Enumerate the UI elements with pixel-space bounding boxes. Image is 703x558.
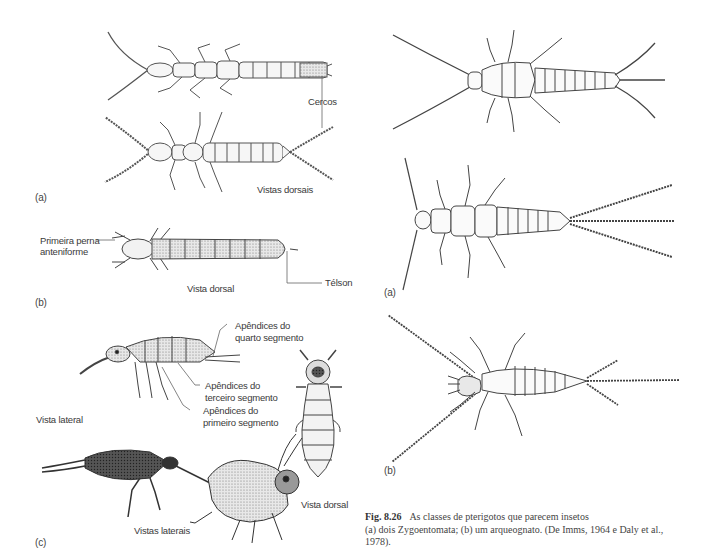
panel-letter-left-c: (c): [35, 537, 46, 548]
globular-springtail-illustration: [190, 434, 302, 543]
label-primeiro-line2: primeiro segmento: [203, 417, 278, 428]
silverfish-bottom-illustration: [403, 158, 674, 290]
label-primeira-perna-line2: anteniforme: [40, 246, 88, 257]
label-telson: Télson: [325, 277, 352, 288]
label-vista-dorsal-b: Vista dorsal: [187, 283, 234, 294]
label-quarto-line2: quarto segmento: [235, 332, 303, 343]
dipluran-bottom-illustration: [105, 112, 333, 192]
label-vista-lateral: Vista lateral: [36, 414, 83, 425]
label-primeira-perna-line1: Primeira perna: [40, 235, 100, 246]
caption-line-1: Fig. 8.26As classes de pterigotos que pa…: [365, 511, 695, 524]
panel-letter-right-b: (b): [384, 465, 396, 476]
label-cercos: Cercos: [308, 96, 337, 107]
panel-letter-left-a: (a): [35, 192, 47, 203]
dipluran-top-illustration: [108, 32, 332, 100]
dark-springtail-illustration: [42, 450, 210, 517]
silverfish-top-illustration: [393, 30, 665, 132]
figure-title: As classes de pterigotos que parecem ins…: [409, 511, 588, 522]
figure-caption: Fig. 8.26As classes de pterigotos que pa…: [365, 511, 695, 549]
figure-number: Fig. 8.26: [365, 511, 401, 522]
label-terceiro-line2: terceiro segmento: [205, 392, 278, 403]
label-primeiro-line1: Apêndices do: [203, 405, 258, 416]
larva-dorsal-illustration: [296, 350, 342, 477]
label-vistas-laterais: Vistas laterais: [134, 525, 190, 536]
label-vistas-dorsais: Vistas dorsais: [257, 184, 313, 195]
label-terceiro-line1: Apêndices do: [205, 380, 260, 391]
label-vista-dorsal-c: Vista dorsal: [301, 499, 348, 510]
panel-letter-left-b: (b): [35, 297, 47, 308]
label-quarto-line1: Apêndices do: [235, 320, 290, 331]
protura-dorsal-illustration: [112, 228, 298, 270]
caption-line-2: (a) dois Zygoentomata; (b) um arqueognat…: [365, 524, 695, 537]
caption-line-3: 1978).: [365, 536, 695, 549]
panel-letter-right-a: (a): [384, 287, 396, 298]
archaeognath-illustration: [388, 315, 680, 462]
